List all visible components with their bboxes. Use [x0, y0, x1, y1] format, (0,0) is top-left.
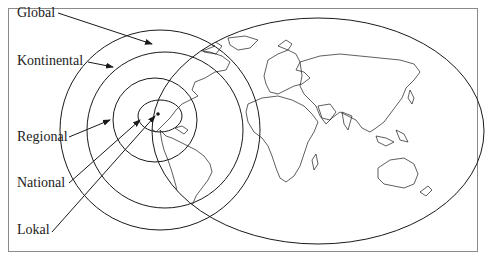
kontinental-arrow	[88, 62, 113, 67]
label-regional: Regional	[17, 129, 68, 145]
label-kontinental: Kontinental	[17, 53, 83, 69]
label-global: Global	[17, 5, 55, 21]
center-dot	[156, 112, 160, 116]
regional-arrow	[69, 120, 110, 137]
label-national: National	[17, 175, 65, 191]
regional-circle	[87, 52, 243, 208]
label-lokal: Lokal	[17, 222, 50, 238]
continent-outlines	[118, 36, 432, 224]
world-map-diagram	[0, 0, 486, 259]
global-arrow	[58, 13, 152, 44]
global-ellipse	[152, 18, 484, 244]
